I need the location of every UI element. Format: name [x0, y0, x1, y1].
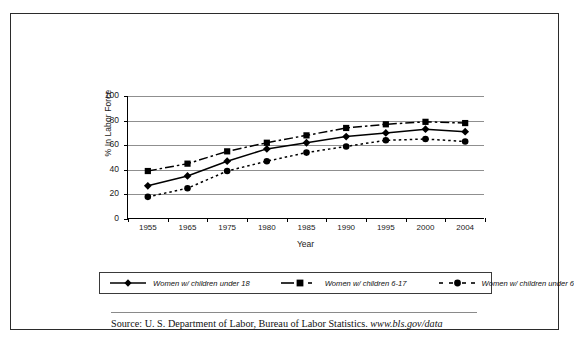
data-point-diamond: [184, 172, 192, 180]
x-tick-label: 1995: [366, 223, 406, 232]
data-point-circle: [224, 168, 231, 175]
x-tick-label: 2000: [406, 223, 446, 232]
data-point-circle: [383, 137, 390, 144]
data-point-diamond: [422, 125, 430, 133]
x-tick-label: 1965: [168, 223, 208, 232]
data-point-square: [184, 161, 190, 167]
data-point-square: [224, 148, 230, 154]
data-point-square: [145, 168, 151, 174]
y-tick-label: 40: [93, 164, 119, 174]
x-tick-mark: [485, 218, 486, 222]
source-url-link[interactable]: www.bls.gov/data: [370, 318, 442, 329]
data-point-square: [264, 140, 270, 146]
legend-label: Women w/ children 6-17: [325, 279, 407, 288]
y-tick-label: 20: [93, 188, 119, 198]
x-axis-title: Year: [127, 239, 484, 249]
data-point-circle: [145, 194, 152, 201]
legend-item-under-18[interactable]: Women w/ children under 18: [108, 273, 250, 293]
data-point-square: [303, 132, 309, 138]
x-tick-label: 1975: [207, 223, 247, 232]
document-border: % In Labor Force 020406080100 1955196519…: [10, 13, 559, 330]
data-point-square: [422, 119, 428, 125]
legend-item-6-17[interactable]: Women w/ children 6-17: [280, 273, 407, 293]
data-point-circle: [422, 136, 429, 143]
data-point-diamond: [303, 139, 311, 147]
data-point-square: [343, 125, 349, 131]
y-tick-label: 100: [93, 90, 119, 100]
legend-key-dashdot-square-icon: [280, 277, 320, 289]
data-point-diamond: [263, 145, 271, 153]
x-tick-label: 1985: [287, 223, 327, 232]
data-point-diamond: [382, 129, 390, 137]
legend-label: Women w/ children under 6: [482, 279, 574, 288]
data-point-diamond: [342, 133, 350, 141]
data-point-circle: [184, 185, 191, 192]
source-divider: [111, 312, 477, 313]
x-tick-label: 2004: [445, 223, 485, 232]
legend-key-dotted-circle-icon: [437, 277, 477, 289]
x-tick-label: 1990: [326, 223, 366, 232]
y-tick-label: 60: [93, 139, 119, 149]
data-point-diamond: [144, 182, 152, 190]
x-tick-label: 1955: [128, 223, 168, 232]
data-point-diamond: [461, 128, 469, 136]
legend-key-solid-diamond-icon: [108, 277, 148, 289]
legend-label: Women w/ children under 18: [153, 279, 250, 288]
source-note: Source: U. S. Department of Labor, Burea…: [111, 318, 491, 329]
source-text: Source: U. S. Department of Labor, Burea…: [111, 318, 368, 329]
data-point-circle: [264, 158, 271, 165]
data-point-circle: [303, 149, 310, 156]
data-point-circle: [462, 138, 469, 145]
series-line-2: [148, 139, 465, 197]
data-point-circle: [343, 143, 350, 150]
data-point-square: [383, 121, 389, 127]
data-point-diamond: [223, 157, 231, 165]
plot-area: 020406080100 195519651975198019851990199…: [127, 96, 484, 219]
x-tick-label: 1980: [247, 223, 287, 232]
chart-legend: Women w/ children under 18 Women w/ chil…: [99, 272, 492, 294]
y-tick-label: 80: [93, 115, 119, 125]
legend-item-under-6[interactable]: Women w/ children under 6: [437, 273, 574, 293]
y-tick-label: 0: [93, 213, 119, 223]
data-point-square: [462, 120, 468, 126]
series-layer: [128, 96, 485, 219]
line-chart: % In Labor Force 020406080100 1955196519…: [71, 74, 501, 244]
